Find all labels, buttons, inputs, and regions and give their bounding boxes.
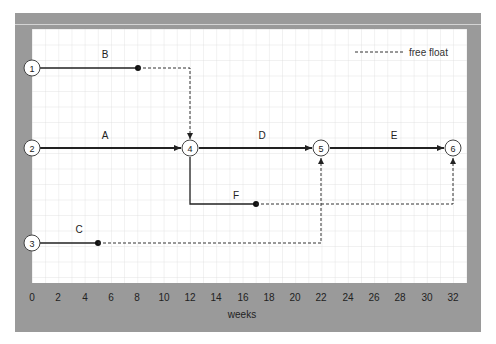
svg-text:2: 2 (29, 144, 34, 154)
activity-c-label: C (75, 224, 82, 235)
tick-label: 16 (237, 292, 249, 303)
svg-text:4: 4 (187, 144, 192, 154)
tick-label: 22 (315, 292, 327, 303)
svg-text:1: 1 (29, 64, 34, 74)
node-4: 4 (182, 140, 198, 156)
tick-label: 28 (394, 292, 406, 303)
node-1: 1 (24, 60, 40, 76)
activity-d-label: D (258, 130, 265, 141)
tick-label: 26 (368, 292, 380, 303)
tick-label: 4 (82, 292, 88, 303)
tick-label: 8 (134, 292, 140, 303)
node-6: 6 (445, 140, 461, 156)
tick-label: 30 (421, 292, 433, 303)
node-2: 2 (24, 140, 40, 156)
tick-label: 24 (342, 292, 354, 303)
tick-label: 0 (29, 292, 35, 303)
legend-label: free float (409, 47, 448, 58)
tick-label: 12 (184, 292, 196, 303)
svg-text:5: 5 (318, 144, 323, 154)
activity-a-label: A (102, 130, 109, 141)
tick-label: 14 (210, 292, 222, 303)
activity-e-label: E (391, 130, 398, 141)
network-diagram: free float B A D E F C 1 2 3 4 5 6 (0, 0, 496, 344)
tick-label: 2 (55, 292, 61, 303)
x-axis-label: weeks (227, 309, 256, 320)
tick-label: 18 (263, 292, 275, 303)
tick-label: 6 (108, 292, 114, 303)
tick-label: 32 (447, 292, 459, 303)
activity-b-label: B (102, 49, 109, 60)
node-5: 5 (313, 140, 329, 156)
x-axis-ticks: 0 2 4 6 8 10 12 14 16 18 20 22 24 26 28 … (29, 292, 459, 303)
tick-label: 20 (289, 292, 301, 303)
tick-label: 10 (158, 292, 170, 303)
svg-text:3: 3 (29, 239, 34, 249)
node-3: 3 (24, 235, 40, 251)
activity-f-label: F (233, 190, 239, 201)
svg-text:6: 6 (450, 144, 455, 154)
